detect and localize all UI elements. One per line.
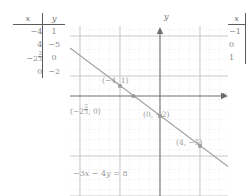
point-label-0-neg2: (0, −2) <box>143 110 169 119</box>
cropped-table-body: x −1 0 1 <box>228 13 246 64</box>
table: x y −4 1 4 −5 −223 0 0 −2 <box>13 13 65 78</box>
cropped-x-table: x −1 0 1 <box>228 13 250 64</box>
cell-y: 1 <box>43 25 65 38</box>
xy-value-table: x y −4 1 4 −5 −223 0 0 −2 <box>13 13 65 78</box>
point-label-suffix: , 0) <box>88 107 100 116</box>
cell-x: 0 <box>228 38 245 51</box>
equation-var2: y <box>106 169 111 178</box>
cell-x: 0 <box>13 65 43 78</box>
equation-term1: −3 <box>73 169 85 178</box>
cell-x: 1 <box>228 51 245 64</box>
fraction: 23 <box>38 51 42 63</box>
equation-operator: − <box>92 169 99 178</box>
figure-root: x y −4 1 4 −5 −223 0 0 −2 <box>0 0 250 196</box>
point-label-prefix: (−2 <box>70 107 84 116</box>
cell-x: −1 <box>228 25 245 38</box>
point-label-neg2-2-3-0: (−223, 0) <box>70 104 101 116</box>
column-header-x: x <box>228 13 245 24</box>
x-axis-label: x <box>222 90 227 99</box>
equation-var1: x <box>85 169 90 178</box>
cell-x-mixed-number: −223 <box>13 51 43 65</box>
fraction-denominator: 3 <box>38 57 42 62</box>
cell-y: 0 <box>43 51 65 65</box>
table-header-row: x y <box>13 13 65 24</box>
table-row: −4 1 <box>13 25 65 38</box>
point-label-neg4-1: (−4, 1) <box>102 76 128 85</box>
equation-right-side: = 8 <box>113 169 127 178</box>
y-axis-label: y <box>164 12 169 21</box>
column-header-y: y <box>43 13 65 24</box>
table-row: 0 −2 <box>13 65 65 78</box>
mixed-integer-part: −2 <box>26 54 38 63</box>
point-label-4-neg5: (4, −5) <box>176 138 202 147</box>
column-header-x: x <box>13 13 43 24</box>
equation-label: −3x − 4y = 8 <box>73 169 128 178</box>
cell-y: −2 <box>43 65 65 78</box>
data-point <box>132 94 136 98</box>
cell-x: −4 <box>13 25 43 38</box>
coordinate-graph: y x (−4, 1) (−223, 0) (0, −2) (4, −5) −3… <box>70 20 230 196</box>
table-row: −223 0 <box>13 51 65 65</box>
cell-y: −5 <box>43 38 65 51</box>
